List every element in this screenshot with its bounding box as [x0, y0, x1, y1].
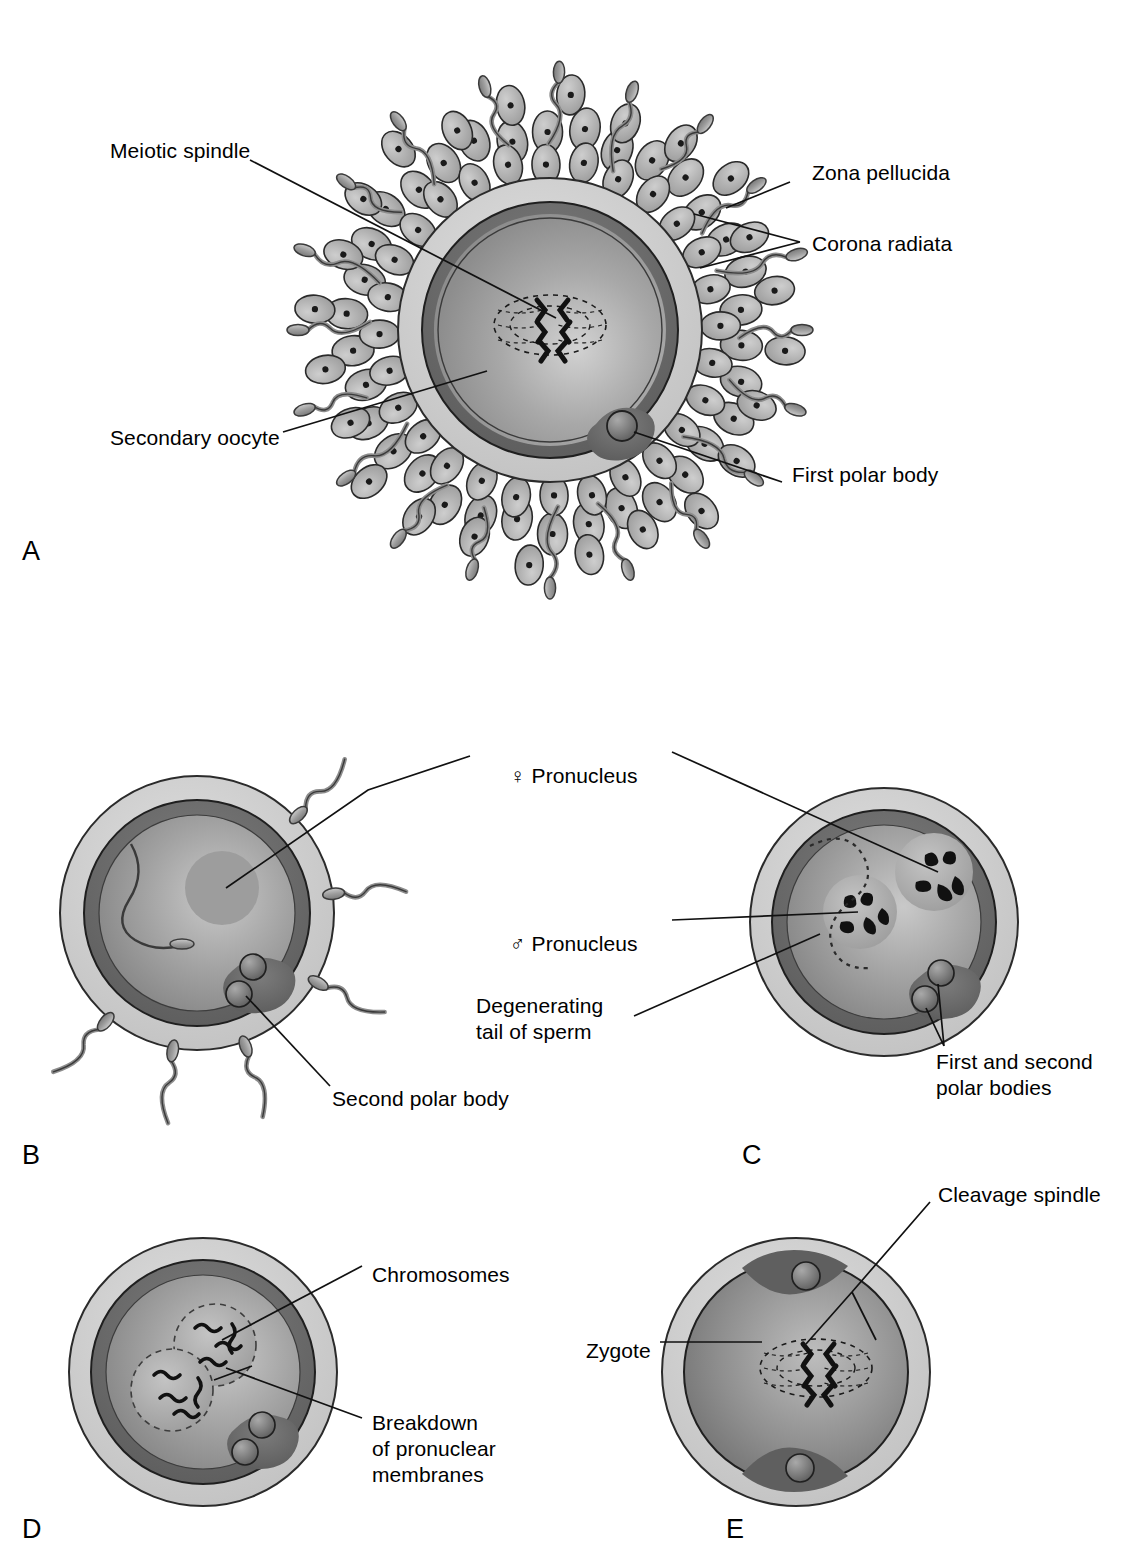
panel-e-illustration [660, 1202, 930, 1506]
label-corona-radiata: Corona radiata [812, 231, 952, 257]
panel-letter-c: C [742, 1142, 762, 1169]
sperm-head-inside-b [170, 939, 194, 949]
sperm-cell [155, 1039, 183, 1123]
corona-cell [514, 544, 545, 586]
corona-cell [764, 335, 806, 366]
first-polar-body-d [249, 1412, 275, 1438]
corona-cell [294, 294, 336, 325]
female-pronucleus-b [185, 851, 259, 925]
panel-a-illustration [250, 61, 813, 599]
label-male-pronucleus: ♂ Pronucleus [486, 905, 638, 983]
label-female-pronucleus: ♀ Pronucleus [486, 737, 638, 815]
second-polar-body-d [232, 1439, 258, 1465]
label-first-polar-body: First polar body [792, 462, 938, 488]
female-pronucleus-c [895, 833, 973, 911]
label-secondary-oocyte: Secondary oocyte [110, 425, 280, 451]
label-meiotic-spindle: Meiotic spindle [110, 138, 250, 164]
label-cleavage-spindle: Cleavage spindle [938, 1182, 1101, 1208]
figure-canvas: Meiotic spindle Zona pellucida Corona ra… [0, 0, 1122, 1564]
panel-letter-e: E [726, 1516, 744, 1543]
panel-d-illustration [69, 1238, 362, 1506]
panel-letter-d: D [22, 1516, 42, 1543]
panel-b-illustration [53, 756, 470, 1123]
polar-body-bottom-e [786, 1454, 814, 1482]
label-zona-pellucida: Zona pellucida [812, 160, 950, 186]
first-polar-body-b [240, 954, 266, 980]
label-pronucleus-female-text: Pronucleus [532, 764, 638, 787]
corona-cell [678, 487, 725, 536]
sperm-cell [322, 878, 406, 903]
female-symbol-icon: ♀ [510, 764, 526, 787]
label-first-second-polar-line1: First and second [936, 1049, 1093, 1075]
label-degenerating-tail-line1: Degenerating [476, 993, 603, 1019]
second-polar-body-b [226, 981, 252, 1007]
polar-body-top-e [792, 1262, 820, 1290]
label-second-polar-body: Second polar body [332, 1086, 509, 1112]
sperm-cell [53, 1008, 117, 1080]
first-polar-body-body [607, 411, 637, 441]
label-pronucleus-male-text: Pronucleus [532, 932, 638, 955]
label-breakdown-line1: Breakdown [372, 1410, 478, 1436]
label-breakdown-line3: membranes [372, 1462, 484, 1488]
label-degenerating-tail-line2: tail of sperm [476, 1019, 592, 1045]
panel-c-illustration [634, 752, 1018, 1056]
male-symbol-icon: ♂ [510, 932, 526, 955]
label-zygote: Zygote [586, 1338, 651, 1364]
label-first-second-polar-line2: polar bodies [936, 1075, 1052, 1101]
label-breakdown-line2: of pronuclear [372, 1436, 496, 1462]
first-polar-body-c [928, 960, 954, 986]
corona-cell [700, 311, 741, 340]
sperm-cell [306, 971, 385, 1024]
second-polar-body-c [912, 986, 938, 1012]
panel-letter-a: A [22, 538, 40, 565]
sperm-cell [285, 759, 354, 826]
panel-letter-b: B [22, 1142, 40, 1169]
label-chromosomes: Chromosomes [372, 1262, 510, 1288]
sperm-cell [234, 1034, 275, 1117]
